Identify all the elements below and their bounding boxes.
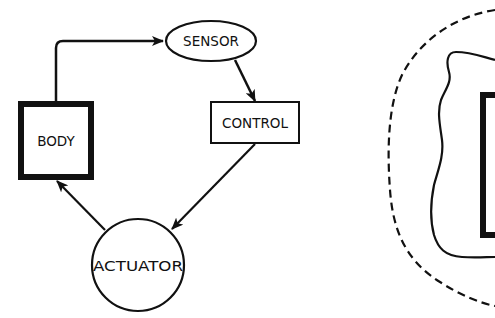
sensor-label: SENSOR [183,33,239,49]
thick-rectangle-partial [483,95,495,235]
right-figure [389,10,495,306]
actuator-label: ACTUATOR [93,258,183,274]
edge-control-to-actuator [172,144,255,229]
node-body: BODY [21,104,91,177]
edge-actuator-to-body [57,181,105,230]
node-control: CONTROL [211,102,299,143]
node-actuator: ACTUATOR [92,219,184,311]
body-label: BODY [37,133,75,149]
edge-sensor-to-control [235,60,255,101]
node-sensor: SENSOR [166,21,256,61]
edge-body-to-sensor [56,41,163,101]
control-label: CONTROL [222,115,288,131]
feedback-loop-diagram: SENSOR CONTROL BODY ACTUATOR [0,0,495,318]
